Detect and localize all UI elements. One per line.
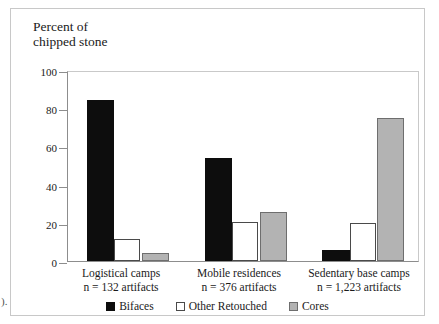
legend-swatch-bifaces-icon [106, 302, 115, 311]
y-tick-label-100: 100 [41, 66, 58, 78]
x-group-label-sedentary-base-camps: Sedentary base camps n = 1,223 artifacts [289, 267, 429, 294]
legend-label-other-retouched: Other Retouched [189, 300, 267, 312]
bar-logistical-camps-bifaces [87, 100, 114, 261]
bar-logistical-camps-other-retouched [114, 239, 140, 261]
y-tick-label-80: 80 [46, 104, 57, 116]
legend-swatch-other-retouched-icon [176, 302, 185, 311]
bar-sedentary-base-camps-bifaces [322, 250, 350, 261]
left-margin-text-fragment: ). [1, 295, 7, 307]
legend-item-cores: Cores [289, 300, 329, 312]
bar-sedentary-base-camps-other-retouched [350, 223, 376, 261]
y-tick-label-60: 60 [46, 142, 57, 154]
y-tick-label-40: 40 [46, 181, 57, 193]
y-tick-label-20: 20 [46, 219, 57, 231]
legend-item-bifaces: Bifaces [106, 300, 153, 312]
bar-sedentary-base-camps-cores [377, 118, 404, 261]
plot-area: 0 20 40 60 80 100 [67, 71, 419, 262]
bar-mobile-residences-bifaces [205, 158, 232, 261]
chart-title: Percent of chipped stone [33, 19, 108, 49]
legend-label-cores: Cores [302, 300, 329, 312]
x-group-label-logistical-camps: Logistical camps n = 132 artifacts [56, 267, 186, 294]
legend-label-bifaces: Bifaces [119, 300, 153, 312]
chart-legend: Bifaces Other Retouched Cores [11, 300, 424, 312]
x-group-label-mobile-residences: Mobile residences n = 376 artifacts [174, 267, 304, 294]
figure-frame: Percent of chipped stone 0 20 40 60 80 1… [10, 8, 425, 316]
bar-mobile-residences-other-retouched [232, 222, 258, 261]
bar-mobile-residences-cores [260, 212, 287, 261]
legend-item-other-retouched: Other Retouched [176, 300, 267, 312]
bar-logistical-camps-cores [142, 253, 169, 261]
legend-swatch-cores-icon [289, 302, 298, 311]
